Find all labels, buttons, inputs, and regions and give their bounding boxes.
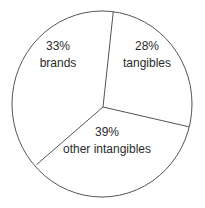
- slice-name-other-intangibles: other intangibles: [48, 141, 166, 158]
- slice-value-tangibles: 28%: [104, 38, 190, 55]
- slice-name-tangibles: tangibles: [104, 55, 190, 72]
- slice-label-tangibles: 28% tangibles: [104, 38, 190, 73]
- slice-name-brands: brands: [18, 55, 98, 72]
- slice-label-brands: 33% brands: [18, 38, 98, 73]
- pie-chart-graphic: [0, 0, 205, 208]
- slice-value-brands: 33%: [18, 38, 98, 55]
- pie-chart: 33% brands 28% tangibles 39% other intan…: [0, 0, 205, 208]
- slice-label-other-intangibles: 39% other intangibles: [48, 124, 166, 159]
- slice-value-other-intangibles: 39%: [48, 124, 166, 141]
